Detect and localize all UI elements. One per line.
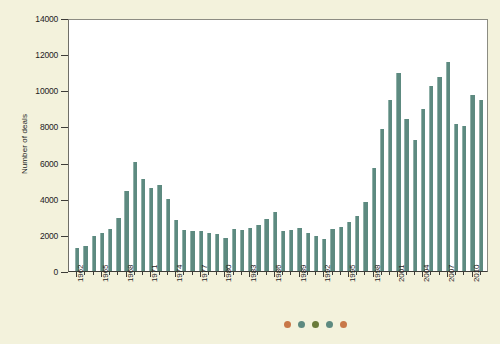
y-axis-tick [61,19,68,20]
x-axis-tick [192,272,193,275]
bar [421,109,425,271]
chart-figure: Number of deals 020004000600080001000012… [0,0,500,344]
bar [372,168,376,271]
bar [124,191,128,271]
y-axis-tick [61,200,68,201]
legend-dots [284,321,347,328]
bar [462,126,466,271]
y-axis-tick [61,164,68,165]
bar [470,95,474,271]
bar [388,100,392,271]
dot-olive [312,321,319,328]
x-axis-tick [142,272,143,275]
x-axis-tick [266,272,267,275]
bar [166,199,170,271]
y-axis-tick-label: 0 [14,267,58,277]
y-axis-tick [61,55,68,56]
y-axis-tick [61,127,68,128]
y-axis-tick [61,236,68,237]
x-axis-tick [414,272,415,275]
x-axis-tick [463,272,464,275]
y-axis-tick-label: 12000 [14,50,58,60]
y-axis-tick-label: 6000 [14,159,58,169]
x-axis-tick [167,272,168,275]
bar [446,62,450,271]
bar [273,212,277,271]
x-axis-tick [93,272,94,275]
dot-orange-1 [284,321,291,328]
bar [264,219,268,271]
x-axis-tick [290,272,291,275]
plot-area [68,19,488,272]
x-axis-tick [406,272,407,275]
y-axis-tick-label: 10000 [14,86,58,96]
bar [133,162,137,271]
bar [314,236,318,271]
bar-series [69,20,487,271]
bar [437,77,441,271]
x-axis-tick [159,272,160,275]
dot-orange-2 [340,321,347,328]
bar [116,218,120,271]
bar [141,179,145,271]
bar [339,227,343,271]
y-axis-tick-label: 14000 [14,14,58,24]
bar [404,119,408,271]
bar [380,129,384,271]
bar [413,140,417,271]
bar [289,230,293,271]
x-axis-tick [439,272,440,275]
y-axis-title: Number of deals [14,96,34,192]
bar [429,86,433,271]
bar [454,124,458,271]
bar [479,100,483,271]
bar [190,231,194,271]
x-axis-tick [241,272,242,275]
y-axis-tick [61,91,68,92]
y-axis-tick-label: 4000 [14,195,58,205]
bar [149,188,153,271]
dot-teal-1 [298,321,305,328]
bar [92,236,96,271]
y-axis-tick-label: 8000 [14,122,58,132]
x-axis-tick [332,272,333,275]
bar [363,202,367,271]
y-axis-tick [61,272,68,273]
bar [157,185,161,271]
x-axis-tick [340,272,341,275]
x-axis-tick [389,272,390,275]
x-axis-tick [117,272,118,275]
bar [215,234,219,271]
x-axis-tick [216,272,217,275]
bar [396,73,400,271]
bar [174,220,178,271]
bar [240,230,244,271]
x-axis-tick [364,272,365,275]
bar [355,216,359,271]
x-axis-tick [315,272,316,275]
x-axis-tick [233,272,234,275]
y-axis-tick-label: 2000 [14,231,58,241]
dot-teal-2 [326,321,333,328]
